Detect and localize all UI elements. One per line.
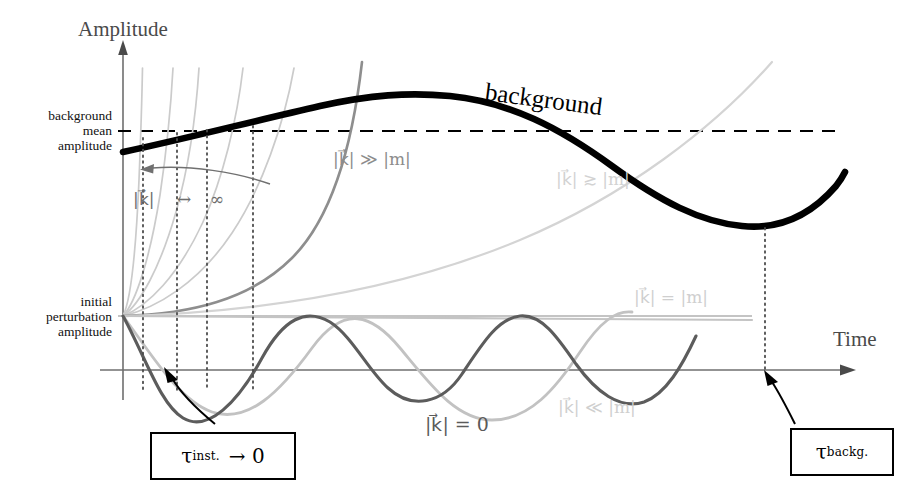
x-axis-label: Time bbox=[833, 328, 877, 352]
background-mean-amplitude-label-line1: background bbox=[0, 108, 112, 123]
background-mean-amplitude-label: background mean amplitude bbox=[0, 108, 112, 153]
k-gtrsim-m-label: |k⃗| ≳ |m| bbox=[556, 170, 630, 189]
tau-backg-subscript: backg. bbox=[827, 445, 869, 459]
k-equals-m-label: |k⃗| = |m| bbox=[634, 288, 708, 307]
y-axis-arrowhead bbox=[118, 40, 128, 55]
k-limit-arrowhead bbox=[140, 164, 154, 174]
k-limit-curved-arrow bbox=[140, 164, 270, 184]
tau-backg-leader-arrow bbox=[764, 370, 795, 424]
schematic-figure: Amplitude Time background mean amplitude… bbox=[0, 0, 909, 491]
dotted-timescale-markers bbox=[143, 126, 765, 390]
background-mean-amplitude-label-line3: amplitude bbox=[0, 138, 112, 153]
tau-inst-symbol: τ bbox=[181, 444, 192, 468]
k-limit-infinity-glyph: ∞ bbox=[210, 189, 224, 209]
tau-background-box: τbackg. bbox=[790, 428, 894, 476]
background-curve bbox=[123, 94, 845, 226]
initial-perturbation-amplitude-label-line2: perturbation bbox=[0, 309, 112, 324]
tau-inst-subscript: inst. bbox=[192, 449, 219, 463]
initial-perturbation-amplitude-label: initial perturbation amplitude bbox=[0, 294, 112, 339]
tau-backg-arrowhead bbox=[764, 370, 778, 386]
k-much-greater-than-m-curve bbox=[123, 62, 362, 316]
k-much-less-than-m-curve bbox=[123, 312, 632, 420]
k-limit-arrow-glyph: ↔ bbox=[177, 189, 191, 209]
k-much-less-than-m-label: |k⃗| ≪ |m| bbox=[558, 398, 636, 417]
tau-inst-limit-value: → 0 bbox=[229, 444, 265, 468]
initial-perturbation-amplitude-label-line1: initial bbox=[0, 294, 112, 309]
k-equals-zero-label: |k⃗| = 0 bbox=[425, 414, 489, 435]
y-axis-label: Amplitude bbox=[78, 18, 168, 42]
k-limit-left-part: |k⃗| bbox=[133, 189, 154, 209]
tau-instability-box: τinst. → 0 bbox=[150, 432, 296, 480]
x-axis-arrowhead bbox=[840, 365, 856, 376]
tau-backg-symbol: τ bbox=[816, 440, 827, 464]
k-limit-annotation: |k⃗| ↔ ∞ bbox=[133, 190, 224, 209]
k-much-greater-than-m-label: |k⃗| ≫ |m| bbox=[333, 150, 411, 169]
initial-perturbation-amplitude-label-line3: amplitude bbox=[0, 324, 112, 339]
background-mean-amplitude-label-line2: mean bbox=[0, 123, 112, 138]
